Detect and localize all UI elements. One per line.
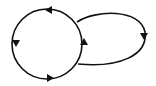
arrow-left-down-icon	[12, 40, 20, 47]
diagram-canvas	[0, 0, 156, 86]
cycle-diagram	[0, 0, 156, 86]
arrow-bottom-right-icon	[47, 74, 54, 82]
main-cycle-circle	[12, 9, 82, 79]
arrow-loop-down-icon	[140, 33, 148, 40]
arrow-top-left-icon	[45, 6, 52, 14]
loop-curve	[77, 13, 145, 64]
